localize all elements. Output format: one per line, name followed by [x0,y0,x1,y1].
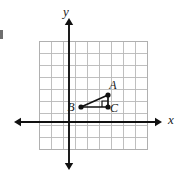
vertex-label-a: A [108,78,117,92]
left-edge-mark [0,30,3,39]
vertex-label-c: C [110,101,119,115]
coordinate-plane-figure: y x ABC [0,0,188,179]
x-axis-label: x [167,112,174,127]
vertex-label-b: B [67,100,75,114]
vertex-dot-a [105,92,110,97]
y-axis-label: y [61,4,69,19]
coordinate-plane-svg: y x ABC [0,0,188,179]
vertex-dot-b [78,104,83,109]
